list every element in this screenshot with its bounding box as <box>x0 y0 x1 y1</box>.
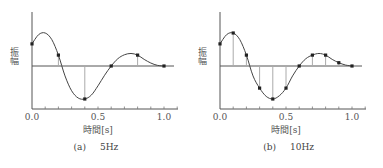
sample-point <box>324 54 327 57</box>
sample-point <box>311 54 314 57</box>
y-axis-label: 振幅 <box>197 46 207 66</box>
sample-point <box>245 54 248 57</box>
x-tick-label: 1.0 <box>345 112 360 122</box>
sample-point <box>284 87 287 90</box>
x-tick-label: 0.5 <box>91 112 106 122</box>
x-tick-label: 1.0 <box>157 112 172 122</box>
x-tick-label: 0.0 <box>213 112 228 122</box>
x-tick-label: 0.5 <box>279 112 294 122</box>
caption-text: 5Hz <box>100 142 119 152</box>
sample-point <box>258 87 261 90</box>
x-axis-label: 時間[s] <box>83 125 113 135</box>
sampling-figure: 0.00.51.0時間[s]振幅(a)5Hz0.00.51.0時間[s]振幅(b… <box>0 0 383 168</box>
sample-point <box>218 42 221 45</box>
sample-point <box>271 97 274 100</box>
sample-point <box>30 42 33 45</box>
sample-point <box>350 64 353 67</box>
caption-label: (a) <box>74 142 86 152</box>
caption-text: 10Hz <box>290 142 314 152</box>
sample-point <box>57 54 60 57</box>
sample-point <box>232 31 235 34</box>
sample-point <box>298 64 301 67</box>
x-axis-label: 時間[s] <box>271 125 301 135</box>
chart-panel-b: 0.00.51.0時間[s]振幅(b)10Hz <box>197 12 366 152</box>
sample-point <box>136 54 139 57</box>
sample-point <box>162 64 165 67</box>
sample-point <box>110 64 113 67</box>
x-tick-label: 0.0 <box>25 112 40 122</box>
chart-panel-a: 0.00.51.0時間[s]振幅(a)5Hz <box>9 12 178 152</box>
sample-point <box>337 61 340 64</box>
y-axis-label: 振幅 <box>9 46 19 66</box>
sample-point <box>83 97 86 100</box>
caption-label: (b) <box>263 142 276 152</box>
